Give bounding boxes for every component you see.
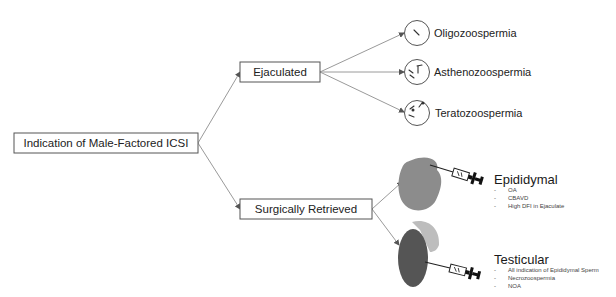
- bullet-marker: -: [494, 275, 496, 281]
- edge-root-to-surgical: [198, 143, 240, 209]
- edge-ejaculated-to-terato: [320, 72, 404, 112]
- teratozoospermia-node: Teratozoospermia: [405, 101, 524, 126]
- diagram-canvas: Indication of Male-Factored ICSI Ejacula…: [0, 0, 616, 297]
- sparse-sperm-circle-icon: [405, 21, 430, 46]
- bullet-marker: -: [494, 203, 496, 209]
- epididymal-bullet-1: OA: [508, 187, 517, 193]
- ejaculated-node-label: Ejaculated: [253, 66, 307, 78]
- immotile-sperm-circle-icon: [405, 60, 430, 85]
- oligozoospermia-node: Oligozoospermia: [405, 21, 518, 46]
- surgically-retrieved-node-label: Surgically Retrieved: [255, 203, 357, 215]
- bullet-marker: -: [494, 187, 496, 193]
- oligozoospermia-label: Oligozoospermia: [434, 27, 517, 39]
- asthenozoospermia-node: Asthenozoospermia: [405, 60, 533, 85]
- epididymal-bullet-3: High DFI in Ejaculate: [508, 203, 565, 209]
- surgically-retrieved-node: Surgically Retrieved: [240, 199, 372, 219]
- testicular-title: Testicular: [494, 252, 550, 267]
- edge-ejaculated-to-oligo: [320, 33, 404, 72]
- testicular-bullet-3: NOA: [508, 283, 521, 289]
- testicular-info: Testicular - All indication of Epididyma…: [494, 252, 599, 289]
- ejaculated-node: Ejaculated: [240, 62, 320, 82]
- edge-root-to-ejaculated: [198, 72, 240, 143]
- abnormal-sperm-circle-icon: [405, 101, 430, 126]
- testicular-bullet-1: All indication of Epididymal Sperm: [508, 267, 599, 273]
- edge-surgical-to-epididymal: [372, 182, 402, 209]
- epididymis-syringe-icon: [399, 158, 485, 211]
- testis-syringe-icon: [398, 221, 482, 287]
- bullet-marker: -: [494, 267, 496, 273]
- root-node-label: Indication of Male-Factored ICSI: [24, 137, 189, 149]
- root-node: Indication of Male-Factored ICSI: [14, 133, 198, 153]
- bullet-marker: -: [494, 283, 496, 289]
- epididymal-title: Epididymal: [494, 172, 558, 187]
- edge-surgical-to-testicular: [372, 209, 399, 245]
- bullet-marker: -: [494, 195, 496, 201]
- testicular-bullet-2: Necrozoospermia: [508, 275, 556, 281]
- teratozoospermia-label: Teratozoospermia: [435, 107, 523, 119]
- asthenozoospermia-label: Asthenozoospermia: [434, 66, 532, 78]
- epididymal-info: Epididymal - OA - CBAVD - High DFI in Ej…: [494, 172, 565, 209]
- epididymal-bullet-2: CBAVD: [508, 195, 529, 201]
